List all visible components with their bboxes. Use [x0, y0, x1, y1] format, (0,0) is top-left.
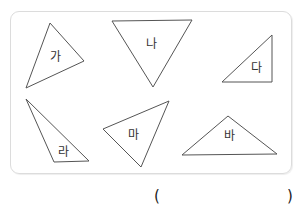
answer-close-paren: ) — [287, 189, 293, 204]
label-ba: 바 — [224, 130, 235, 142]
answer-blank[interactable] — [165, 189, 283, 205]
triangle-na — [112, 20, 192, 87]
label-da: 다 — [251, 62, 262, 74]
label-na: 나 — [146, 38, 157, 50]
label-ma: 마 — [128, 129, 139, 141]
triangles-figure — [0, 0, 302, 212]
label-ra: 라 — [58, 146, 69, 158]
label-ga: 가 — [50, 51, 61, 63]
triangle-da — [222, 35, 272, 82]
answer-open-paren: ( — [154, 189, 160, 204]
